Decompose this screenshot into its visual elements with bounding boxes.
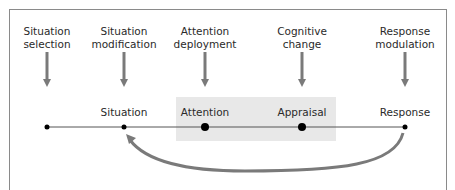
stage-dot	[201, 123, 209, 131]
stage-dot	[298, 123, 306, 131]
down-arrow-icon	[43, 52, 409, 87]
feedback-arrow	[130, 133, 403, 171]
stage-dot	[45, 125, 50, 130]
stage-dot	[403, 125, 408, 130]
stage-dot	[122, 125, 127, 130]
diagram-graphics	[0, 0, 455, 190]
